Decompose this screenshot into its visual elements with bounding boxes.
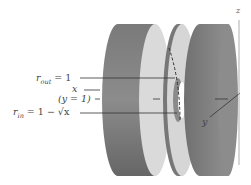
right-disk — [184, 24, 238, 176]
y-axis-label: y — [202, 117, 207, 127]
z-axis-label: z — [236, 6, 240, 15]
r-out-label: rout = 1 — [36, 73, 71, 85]
r-in-label: rin = 1 − √x — [13, 107, 69, 119]
washer-slices-illustration — [0, 0, 251, 185]
y-equals-1-label: (y = 1) — [58, 94, 91, 104]
washer-diagram: rout = 1 x (y = 1) rin = 1 − √x y z — [0, 0, 251, 185]
left-disk — [102, 24, 171, 176]
